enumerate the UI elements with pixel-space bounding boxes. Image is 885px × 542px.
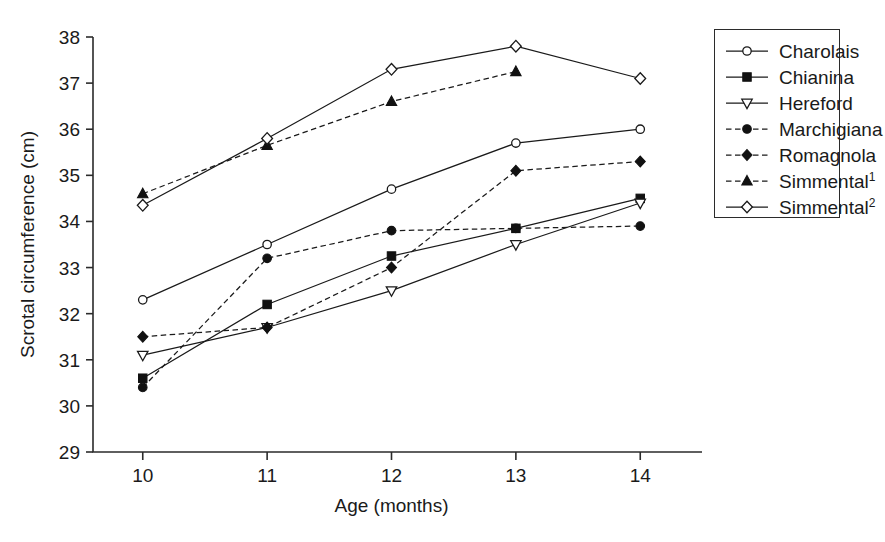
legend-label-chianina: Chianina: [779, 68, 854, 87]
legend-item-romagnola: Romagnola: [724, 142, 839, 168]
figure-root: 293031323334353637381011121314Age (month…: [0, 0, 885, 542]
legend-item-hereford: Hereford: [724, 90, 839, 116]
data-point-open-diamond: [386, 63, 397, 75]
data-point-filled-circle: [743, 125, 752, 134]
legend-key-filled-square-icon: [724, 66, 770, 88]
legend-label-simmental2: Simmental2: [779, 197, 875, 217]
data-point-filled-square: [263, 300, 271, 308]
legend-key-filled-diamond-icon: [724, 144, 770, 166]
data-point-open-circle: [139, 296, 147, 304]
legend-key-open-circle-icon: [724, 40, 770, 62]
y-tick-label: 35: [59, 165, 80, 186]
data-point-filled-circle: [636, 222, 645, 231]
data-point-open-circle: [387, 185, 395, 193]
data-point-filled-circle: [387, 226, 396, 235]
data-point-open-diamond: [742, 201, 753, 213]
legend-key-filled-circle-icon: [724, 118, 770, 140]
y-tick-label: 37: [59, 73, 80, 94]
legend-item-chianina: Chianina: [724, 64, 839, 90]
x-tick-label: 12: [381, 465, 402, 486]
legend-key-open-triangle-down-icon: [724, 92, 770, 114]
data-point-open-triangle-down: [742, 99, 752, 108]
y-tick-label: 31: [59, 350, 80, 371]
data-point-filled-square: [387, 252, 395, 260]
y-tick-label: 36: [59, 119, 80, 140]
y-tick-label: 34: [59, 211, 81, 232]
y-tick-label: 30: [59, 396, 80, 417]
data-point-open-diamond: [510, 40, 521, 52]
series-charolais: [139, 125, 645, 304]
data-point-filled-diamond: [742, 150, 752, 161]
legend-item-charolais: Charolais: [724, 38, 839, 64]
y-tick-label: 29: [59, 442, 80, 463]
data-point-open-triangle-down: [138, 351, 148, 360]
x-tick-label: 13: [505, 465, 526, 486]
legend-item-simmental2: Simmental2: [724, 194, 839, 220]
y-tick-label: 33: [59, 258, 80, 279]
data-point-filled-triangle-up: [386, 96, 396, 106]
x-axis-title: Age (months): [334, 495, 448, 516]
legend-label-romagnola: Romagnola: [779, 146, 876, 165]
data-point-filled-circle: [138, 383, 147, 392]
x-tick-label: 11: [257, 465, 277, 486]
series-simmental1: [138, 66, 522, 198]
data-point-open-diamond: [137, 200, 148, 212]
data-point-filled-square: [139, 374, 147, 382]
data-point-open-circle: [512, 139, 520, 147]
data-point-open-diamond: [635, 73, 646, 85]
series-marchigiana: [138, 222, 644, 392]
data-point-filled-diamond: [387, 262, 397, 273]
series-line-charolais: [143, 129, 641, 300]
y-tick-label: 32: [59, 304, 80, 325]
y-axis-title: Scrotal circumference (cm): [17, 131, 38, 358]
data-point-filled-diamond: [511, 165, 521, 176]
data-point-open-diamond: [262, 133, 273, 145]
chart-axes: [93, 37, 702, 452]
legend-item-marchigiana: Marchigiana: [724, 116, 839, 142]
data-point-filled-triangle-up: [511, 66, 521, 76]
legend-label-superscript: 2: [869, 196, 876, 210]
data-point-open-circle: [743, 47, 751, 55]
legend-label-charolais: Charolais: [779, 42, 859, 61]
data-point-filled-triangle-up: [742, 175, 752, 185]
y-tick-label: 38: [59, 27, 80, 48]
legend-label-marchigiana: Marchigiana: [779, 120, 883, 139]
data-point-filled-diamond: [138, 331, 148, 342]
data-point-open-circle: [636, 125, 644, 133]
x-tick-label: 10: [132, 465, 153, 486]
legend-key-open-diamond-icon: [724, 196, 770, 218]
legend-label-simmental1: Simmental1: [779, 171, 875, 191]
data-point-filled-circle: [263, 254, 272, 263]
legend-label-hereford: Hereford: [779, 94, 853, 113]
x-tick-label: 14: [630, 465, 652, 486]
legend-key-filled-triangle-up-icon: [724, 170, 770, 192]
chart-legend: CharolaisChianinaHerefordMarchigianaRoma…: [714, 29, 840, 218]
data-point-filled-diamond: [635, 156, 645, 167]
data-point-filled-circle: [512, 224, 521, 233]
legend-label-superscript: 1: [869, 170, 876, 184]
data-point-filled-square: [743, 73, 751, 81]
legend-item-simmental1: Simmental1: [724, 168, 839, 194]
series-line-marchigiana: [143, 226, 641, 387]
data-point-open-circle: [263, 240, 271, 248]
